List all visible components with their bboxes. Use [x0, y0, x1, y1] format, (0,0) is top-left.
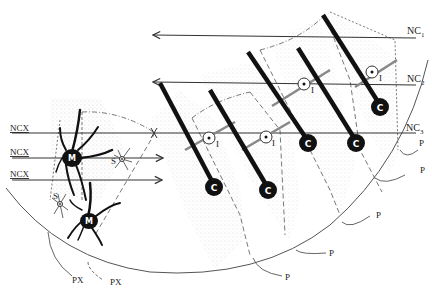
- ncx-label-3: NCX: [10, 169, 30, 179]
- stippled-fields: [50, 10, 400, 270]
- svg-text:C: C: [265, 186, 272, 196]
- svg-text:I: I: [216, 139, 219, 149]
- svg-text:C: C: [211, 183, 218, 193]
- p-label-1: P: [420, 165, 425, 175]
- nc3-label: NC3: [406, 122, 424, 136]
- ncx-label-2: NCX: [10, 147, 30, 157]
- svg-text:M: M: [85, 217, 93, 226]
- diagram-canvas: I I I I C C: [0, 0, 432, 293]
- nc1-label: NC1: [407, 25, 425, 39]
- p-label-3: P: [329, 248, 334, 258]
- p-label-5: P: [419, 138, 424, 148]
- svg-text:I: I: [311, 85, 314, 95]
- svg-text:C: C: [305, 139, 312, 149]
- svg-text:M: M: [68, 154, 76, 163]
- svg-text:S: S: [111, 156, 116, 166]
- p-label-2: P: [376, 210, 381, 220]
- svg-text:C: C: [377, 103, 384, 113]
- svg-text:C: C: [353, 139, 360, 149]
- svg-text:I: I: [379, 73, 382, 83]
- ncx-label-1: NCX: [10, 123, 30, 133]
- svg-text:I: I: [272, 138, 275, 148]
- p-label-4: P: [285, 272, 290, 282]
- px-label-1: PX: [72, 275, 84, 285]
- px-label-2: PX: [110, 277, 122, 287]
- svg-text:S: S: [53, 191, 58, 201]
